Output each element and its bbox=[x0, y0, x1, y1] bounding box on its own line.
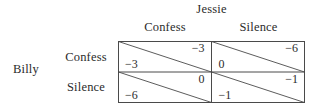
row-header-confess: Confess bbox=[58, 50, 114, 64]
payoff-matrix-grid: −3 −3 −6 0 0 −6 −1 −1 bbox=[118, 41, 305, 103]
cell-silence-confess: 0 −6 bbox=[118, 72, 212, 103]
row-player-label: Billy bbox=[4, 62, 48, 76]
cell-column-payoff: −1 bbox=[285, 73, 298, 86]
payoff-matrix-figure: Jessie Confess Silence Billy Confess Sil… bbox=[0, 0, 312, 111]
cell-column-payoff: 0 bbox=[199, 73, 205, 86]
cell-row-payoff: −1 bbox=[219, 89, 232, 102]
cell-column-payoff: −6 bbox=[285, 42, 298, 55]
cell-row-payoff: −3 bbox=[125, 58, 138, 71]
cell-column-payoff: −3 bbox=[192, 42, 205, 55]
cell-silence-silence: −1 −1 bbox=[212, 72, 306, 103]
cell-confess-silence: −6 0 bbox=[212, 41, 306, 72]
row-header-silence: Silence bbox=[58, 80, 114, 94]
cell-row-payoff: −6 bbox=[125, 89, 138, 102]
column-header-silence: Silence bbox=[212, 20, 305, 34]
cell-row-payoff: 0 bbox=[219, 58, 225, 71]
column-header-confess: Confess bbox=[118, 20, 212, 34]
cell-confess-confess: −3 −3 bbox=[118, 41, 212, 72]
column-player-label: Jessie bbox=[118, 2, 305, 16]
